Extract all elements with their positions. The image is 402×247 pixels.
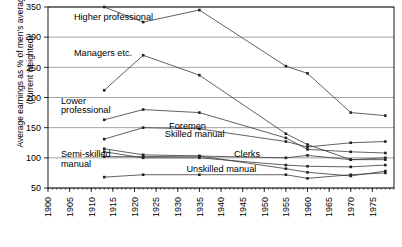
series-label: Managers etc.: [74, 48, 132, 58]
y-axis-ticks-group: 50100150200250300350: [26, 2, 48, 193]
x-tick-label: 1920: [130, 197, 140, 217]
data-point-marker: [285, 167, 288, 170]
series-labels-group: Higher professionalManagers etc.Lowerpro…: [61, 12, 260, 173]
data-point-marker: [285, 157, 288, 160]
data-point-marker: [349, 141, 352, 144]
series-label: Semi-skilledmanual: [61, 149, 111, 169]
data-point-marker: [103, 6, 106, 9]
data-point-marker: [384, 158, 387, 161]
x-tick-label: 1925: [151, 197, 161, 217]
data-point-marker: [306, 154, 309, 157]
chart-container: Average earnings as % of men's average (…: [0, 0, 402, 247]
data-point-marker: [349, 173, 352, 176]
data-point-marker: [349, 158, 352, 161]
data-point-marker: [306, 148, 309, 151]
data-point-marker: [285, 132, 288, 135]
data-point-marker: [306, 165, 309, 168]
data-point-marker: [198, 111, 201, 114]
data-point-marker: [285, 173, 288, 176]
y-tick-label: 300: [26, 32, 41, 42]
series-line: [104, 173, 385, 178]
y-tick-label: 50: [31, 183, 41, 193]
data-point-marker: [142, 54, 145, 57]
x-tick-label: 1955: [281, 197, 291, 217]
y-tick-label: 150: [26, 123, 41, 133]
y-tick-label: 350: [26, 2, 41, 12]
series-label: Clerks: [234, 149, 260, 159]
data-point-marker: [142, 108, 145, 111]
x-axis-ticks-group: 1900190519101915192019251930193519401945…: [43, 188, 394, 217]
series-label: Unskilled manual: [186, 164, 256, 174]
data-point-marker: [142, 173, 145, 176]
series-line: [104, 128, 385, 147]
x-tick-label: 1910: [87, 197, 97, 217]
data-point-marker: [349, 111, 352, 114]
x-tick-label: 1905: [65, 197, 75, 217]
data-point-marker: [198, 74, 201, 77]
data-point-marker: [285, 140, 288, 143]
data-point-marker: [285, 164, 288, 167]
x-tick-label: 1950: [260, 197, 270, 217]
x-tick-label: 1935: [195, 197, 205, 217]
line-chart: 50100150200250300350 1900190519101915192…: [0, 0, 402, 247]
y-tick-label: 200: [26, 93, 41, 103]
data-point-marker: [349, 151, 352, 154]
data-point-marker: [198, 9, 201, 12]
data-point-marker: [306, 146, 309, 149]
data-point-marker: [384, 140, 387, 143]
data-point-marker: [142, 155, 145, 158]
data-point-marker: [103, 176, 106, 179]
data-point-marker: [306, 72, 309, 75]
data-point-marker: [198, 173, 201, 176]
data-point-marker: [349, 166, 352, 169]
series-line: [104, 7, 385, 116]
x-tick-label: 1915: [108, 197, 118, 217]
x-tick-label: 1945: [238, 197, 248, 217]
data-point-marker: [103, 89, 106, 92]
x-tick-label: 1940: [216, 197, 226, 217]
data-point-marker: [142, 126, 145, 129]
data-point-marker: [103, 138, 106, 141]
y-tick-label: 250: [26, 63, 41, 73]
data-point-marker: [306, 143, 309, 146]
data-point-marker: [384, 164, 387, 167]
gridlines-group: [48, 7, 394, 188]
x-tick-label: 1900: [43, 197, 53, 217]
series-label: Higher professional: [74, 12, 153, 22]
x-tick-label: 1960: [303, 197, 313, 217]
data-point-marker: [285, 65, 288, 68]
data-point-marker: [306, 171, 309, 174]
x-tick-label: 1975: [368, 197, 378, 217]
x-tick-label: 1930: [173, 197, 183, 217]
y-tick-label: 100: [26, 153, 41, 163]
data-point-marker: [384, 152, 387, 155]
data-point-marker: [103, 119, 106, 122]
data-point-marker: [285, 137, 288, 140]
data-point-marker: [198, 155, 201, 158]
series-line: [104, 110, 385, 153]
x-tick-label: 1965: [324, 197, 334, 217]
data-point-marker: [384, 114, 387, 117]
x-tick-label: 1970: [346, 197, 356, 217]
series-line: [104, 55, 385, 159]
data-point-marker: [384, 172, 387, 175]
series-label: Lowerprofessional: [61, 96, 111, 116]
series-label: Skilled manual: [165, 129, 225, 139]
data-point-marker: [306, 177, 309, 180]
